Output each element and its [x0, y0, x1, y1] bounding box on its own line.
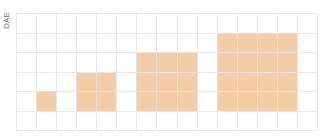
y-axis-label-text: DAE: [2, 12, 11, 29]
y-axis-label: DAE: [1, 12, 15, 32]
plot-area: [16, 13, 317, 130]
grid-lines: [16, 13, 318, 131]
